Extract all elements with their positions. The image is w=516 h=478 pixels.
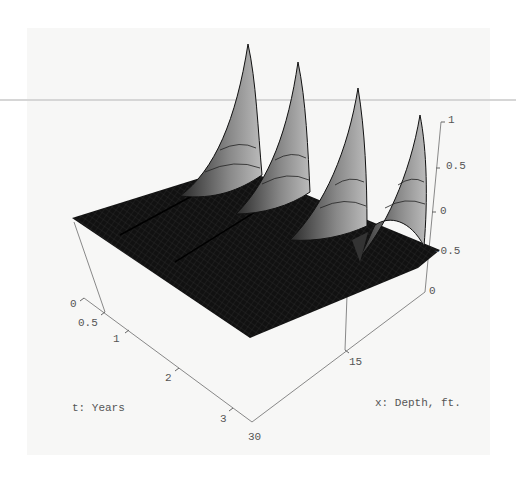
t-tick-0.5: 0.5 [78, 317, 98, 329]
z-tick-neg0.5: -0.5 [434, 245, 460, 257]
t-tick-0: 0 [70, 298, 77, 310]
t-axis-title: t: Years [72, 402, 125, 414]
t-tick-3: 3 [220, 413, 227, 425]
x-axis-title: x: Depth, ft. [375, 397, 461, 409]
x-tick-30: 30 [248, 431, 261, 443]
t-tick-2: 2 [165, 372, 172, 384]
x-tick-0: 0 [429, 285, 436, 297]
z-tick-0: 0 [440, 205, 447, 217]
z-tick-1: 1 [448, 114, 455, 126]
x-tick-15: 15 [349, 356, 362, 368]
z-tick-0.5: 0.5 [446, 160, 466, 172]
t-tick-1: 1 [113, 333, 120, 345]
